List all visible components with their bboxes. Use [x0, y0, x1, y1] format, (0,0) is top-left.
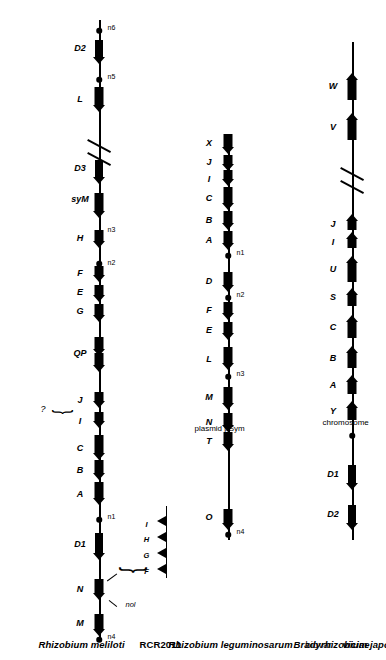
node-dot-panel3: [349, 433, 355, 439]
node-n4-panel1: [96, 637, 102, 643]
gene-label-J: J: [77, 395, 82, 405]
gene-label-B-p2: B: [206, 215, 213, 225]
gene-label-B: B: [77, 465, 84, 475]
node-n1-panel2: [225, 253, 231, 259]
gene-label-L: L: [77, 94, 83, 104]
gene-label-A: A: [77, 489, 84, 499]
node-n3-panel2: [225, 374, 231, 380]
gene-label-Y-p3: Y: [330, 406, 336, 416]
inset-label-H: H: [144, 535, 149, 544]
inset-label-F: F: [144, 567, 149, 576]
gene-label-F: F: [77, 268, 83, 278]
node-n2-panel2: [225, 295, 231, 301]
node-label-n2-panel2: n2: [237, 291, 245, 298]
replicon-label-panel2: plasmid pSym: [195, 424, 245, 433]
gene-label-W-p3: W: [329, 81, 338, 91]
node-label-n2-panel1: n2: [108, 259, 116, 266]
gene-label-QP: QP: [73, 348, 86, 358]
gene-label-C-p2: C: [206, 193, 213, 203]
gene-label-M: M: [76, 618, 84, 628]
node-n6-panel1: [96, 28, 102, 34]
gene-label-U-p3: U: [330, 264, 337, 274]
gene-label-T-p2: T: [206, 436, 212, 446]
replicon-label-panel3: chromosome: [323, 418, 369, 427]
gene-label-E: E: [77, 287, 83, 297]
inset-arrow-G: [157, 548, 166, 558]
node-n4-panel2: [225, 532, 231, 538]
gene-label-I-p2: I: [208, 174, 211, 184]
gene-label-N-p2: N: [206, 417, 213, 427]
gene-label-C: C: [77, 443, 84, 453]
gene-label-V-p3: V: [330, 122, 336, 132]
inset-leader-right: [107, 573, 117, 581]
species-name-panel3: Bradyrhizobium japonicum USDA110: [294, 639, 386, 650]
gene-label-I: I: [79, 416, 82, 426]
gene-label-L-p2: L: [206, 354, 212, 364]
inset-label-G: G: [144, 551, 150, 560]
species-name-panel1: Rhizobium meliloti RCR2011: [39, 639, 182, 650]
gene-label-M-p2: M: [205, 392, 213, 402]
inset-operon-label: nol: [125, 600, 135, 609]
inset-brace: {: [116, 567, 146, 573]
gene-label-G: G: [76, 306, 83, 316]
node-label-n4-panel2: n4: [237, 528, 245, 535]
gene-label-D2: D2: [74, 43, 86, 53]
inset-axis: [166, 506, 167, 578]
gene-label-I-p3: I: [332, 237, 335, 247]
node-n3-panel1: [96, 232, 102, 238]
gene-label-A-p2: A: [206, 235, 213, 245]
uncertainty-brace-panel1: {: [50, 410, 72, 414]
gene-label-J-p2: J: [206, 157, 211, 167]
gene-label-E-p2: E: [206, 325, 212, 335]
inset-arrow-I: [157, 516, 166, 526]
gene-label-X-p2: X: [206, 138, 212, 148]
gene-label-D2-p3: D2: [327, 509, 339, 519]
gene-label-A-p3: A: [330, 380, 337, 390]
gene-label-D1-p3: D1: [327, 469, 339, 479]
gene-label-S-p3: S: [330, 292, 336, 302]
gene-map-figure: Rhizobium meliloti RCR2011: [0, 0, 386, 660]
node-label-n1-panel1: n1: [108, 513, 116, 520]
node-label-n3-panel2: n3: [237, 370, 245, 377]
node-label-n6-panel1: n6: [108, 24, 116, 31]
node-label-n1-panel2: n1: [237, 249, 245, 256]
inset-arrow-H: [157, 532, 166, 542]
gene-label-syM: syM: [71, 194, 89, 204]
node-n2-panel1: [96, 261, 102, 267]
gene-label-D1: D1: [74, 539, 86, 549]
node-n1-panel1: [96, 517, 102, 523]
node-label-n3-panel1: n3: [108, 226, 116, 233]
node-label-n5-panel1: n5: [108, 73, 116, 80]
inset-leader-left: [109, 600, 118, 607]
gene-label-F-p2: F: [206, 305, 212, 315]
gene-label-O-p2: O: [205, 512, 212, 522]
gene-label-B-p3: B: [330, 353, 337, 363]
question-mark-panel1: ?: [40, 404, 45, 414]
inset-label-I: I: [145, 520, 147, 529]
node-n5-panel1: [96, 77, 102, 83]
gene-label-C-p3: C: [330, 322, 337, 332]
node-label-n4-panel1: n4: [108, 633, 116, 640]
gene-label-N: N: [77, 584, 84, 594]
gene-label-H: H: [77, 233, 84, 243]
gene-label-J-p3: J: [330, 219, 335, 229]
inset-arrow-F: [157, 564, 166, 574]
gene-label-D3: D3: [74, 163, 86, 173]
gene-label-D-p2: D: [206, 276, 213, 286]
